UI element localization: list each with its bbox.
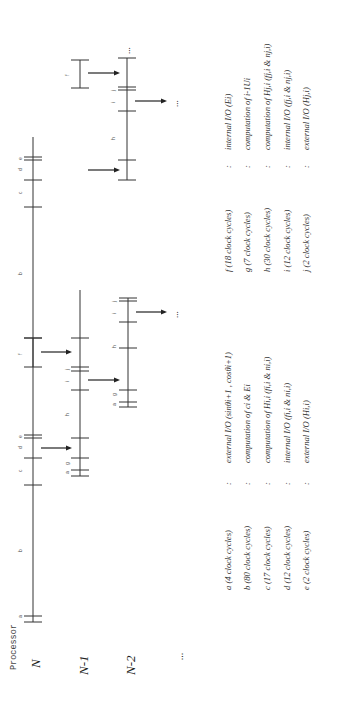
phase-label-i: i [110,102,116,103]
legend-c-desc: computation of Hi,i (fi,i & ni,i) [262,356,272,463]
phase-label-h: h [110,137,116,140]
legend-a-cycles: a (4 clock cycles) [223,530,233,590]
legend-a-sep: : [223,482,233,485]
legend-h-sep: : [262,165,272,168]
phase-label-e: e [17,435,23,438]
processor-label-n-2: N-2 [123,655,138,676]
pipeline-timing-diagram: Processor N N-1 N-2 ... a b c d e b c d … [0,0,339,704]
phase-label-j: j [110,90,116,92]
legend-j-sep: : [301,165,311,168]
phase-label-h: h [64,413,70,416]
legend-e-cycles: e (2 clock cycles) [301,530,311,590]
legend-j-desc: external I/O (Hj,i) [301,87,311,150]
timeline-processor-n-1st: a b c d e [17,137,42,622]
phase-label-c: c [17,191,23,194]
timeline-processor-n-2nd: b c d e [17,157,42,338]
legend-b-desc: computation of ci & Ei [242,384,252,463]
phase-label-j: j [111,301,117,303]
legend-g-desc: computation of i-1Ui [242,77,252,150]
phase-label-b: b [17,549,23,552]
continuation-dots: ... [170,311,180,318]
legend-e-sep: : [301,482,311,485]
phase-label-f: f [64,74,70,76]
legend-i-sep: : [282,165,292,168]
legend: a (4 clock cycles) : external I/O (sinθi… [223,43,311,590]
legend-h-desc: computation of Hj,i (fj,i & nj,i) [262,43,272,150]
legend-i-desc: internal I/O (fj,i & nj,i) [282,70,292,150]
continuation-dots: ... [122,47,132,54]
legend-b-sep: : [242,482,252,485]
phase-label-a: a [17,615,23,618]
legend-j-cycles: j (2 clock cycles) [301,214,311,273]
legend-d-cycles: d (12 clock cycles) [282,526,292,590]
phase-label-a: a [111,403,117,406]
timeline-processor-n-2: a g h i j ... [111,298,180,407]
legend-h-cycles: h (30 clock cycles) [262,208,272,272]
phase-label-f: f [17,353,23,355]
legend-a-desc: external I/O (sinθi+1 , cosθi+1) [223,352,233,463]
phase-label-c: c [17,469,23,472]
legend-c-cycles: c (17 clock cycles) [262,526,272,590]
phase-label-h: h [111,345,117,348]
timeline-processor-n-1-upper: h i j ... ... [88,47,180,180]
legend-d-desc: internal I/O (fi,i & ni,i) [282,383,292,463]
phase-label-e: e [17,157,23,160]
phase-label-d: d [17,446,23,449]
phase-label-j: j [64,369,70,371]
legend-g-sep: : [242,165,252,168]
legend-f-desc: internal I/O (Ei) [223,94,233,150]
legend-e-desc: external I/O (Hi,i) [301,400,311,463]
processor-label-n-1: N-1 [76,656,91,677]
processor-label-more: ... [174,653,185,661]
phase-label-d: d [17,168,23,171]
processor-axis-title: Processor [9,624,19,670]
phase-label-b: b [17,272,23,275]
legend-c-sep: : [262,482,272,485]
timeline-processor-n-1-1st: a g h i j [41,290,120,476]
phase-label-g: g [64,462,70,465]
phase-label-a: a [64,471,70,474]
f-bracket-lower: f [17,338,72,367]
phase-label-i: i [111,313,117,314]
legend-b-cycles: b (80 clock cycles) [242,526,252,590]
continuation-dots: ... [170,100,180,107]
legend-i-cycles: i (12 clock cycles) [282,210,292,272]
phase-label-i: i [64,381,70,382]
legend-f-sep: : [223,165,233,168]
processor-label-n: N [28,658,43,669]
legend-f-cycles: f (18 clock cycles) [223,210,233,272]
phase-label-g: g [111,393,117,396]
timeline-processor-n-1-2nd: f [64,60,120,88]
legend-d-sep: : [282,482,292,485]
legend-g-cycles: g (7 clock cycles) [242,212,252,272]
